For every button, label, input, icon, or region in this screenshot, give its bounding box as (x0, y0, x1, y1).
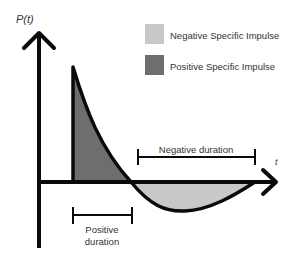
legend-label-positive: Positive Specific Impulse (170, 61, 275, 72)
diagram-canvas: P(t) t Negative Specific Impulse Positiv… (0, 0, 295, 262)
negative-duration-label: Negative duration (159, 144, 233, 155)
legend-swatch-negative (145, 24, 164, 44)
positive-duration-bracket (73, 207, 132, 224)
legend-label-negative: Negative Specific Impulse (170, 30, 279, 41)
y-axis-label: P(t) (16, 13, 34, 25)
legend-swatch-positive (145, 55, 164, 75)
negative-impulse-area (131, 182, 255, 211)
positive-duration-label-line2: duration (85, 236, 119, 247)
positive-impulse-area (73, 67, 131, 182)
positive-duration-label-line1: Positive (85, 224, 118, 235)
x-axis-label: t (275, 157, 278, 167)
